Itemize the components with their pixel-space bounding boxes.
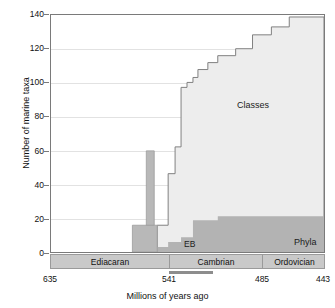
y-axis-title: Number of marine taxa (21, 43, 31, 203)
y-tick-label: 40 (10, 181, 44, 190)
series-eb-block (132, 225, 157, 252)
y-tick-mark (44, 82, 49, 83)
y-tick-mark (44, 151, 49, 152)
y-tick-label: 0 (10, 249, 44, 258)
period-ordovician: Ordovician (263, 255, 326, 268)
y-tick-label: 140 (10, 10, 44, 19)
series-eb-spike (146, 151, 154, 225)
x-tick-label: 541 (162, 274, 176, 284)
x-tick-label: 635 (43, 274, 57, 284)
y-tick-mark (44, 116, 49, 117)
y-tick-mark (44, 253, 49, 254)
series-label-classes: Classes (237, 100, 269, 110)
x-tick-label: 443 (316, 274, 330, 284)
x-axis-title: Millions of years ago (0, 291, 335, 301)
y-tick-mark (44, 48, 49, 49)
y-tick-mark (44, 185, 49, 186)
x-tick-label: 485 (255, 274, 269, 284)
y-tick-mark (44, 14, 49, 15)
period-cambrian: Cambrian (170, 255, 263, 268)
y-tick-label: 120 (10, 44, 44, 53)
y-tick-label: 20 (10, 215, 44, 224)
chart-figure: Number of marine taxa 0 20 40 60 80 100 … (0, 0, 335, 308)
plot-area: Classes Phyla EB (50, 14, 325, 253)
period-ediacaran: Ediacaran (51, 255, 170, 268)
series-label-phyla: Phyla (294, 237, 317, 247)
y-tick-label: 100 (10, 78, 44, 87)
period-band: Ediacaran Cambrian Ordovician (50, 254, 325, 269)
y-tick-mark (44, 219, 49, 220)
y-tick-label: 60 (10, 147, 44, 156)
y-tick-label: 80 (10, 112, 44, 121)
series-label-eb: EB (184, 239, 195, 249)
series-layers (51, 15, 324, 252)
